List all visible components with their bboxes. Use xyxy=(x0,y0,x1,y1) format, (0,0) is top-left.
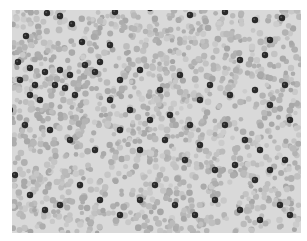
micrograph-field xyxy=(12,10,301,233)
micrograph-image xyxy=(12,10,301,233)
